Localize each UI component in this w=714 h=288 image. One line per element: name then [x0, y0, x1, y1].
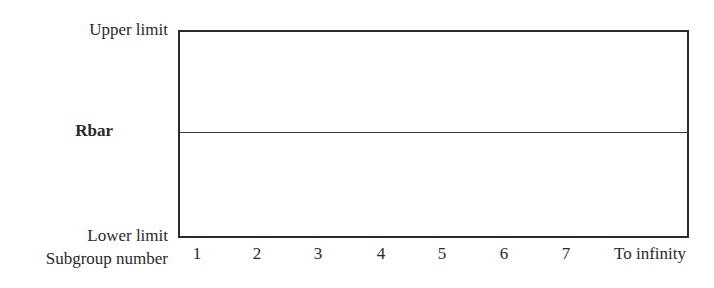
lower-limit-label: Lower limit — [87, 226, 168, 246]
rbar-label: Rbar — [75, 121, 113, 141]
x-tick-label: 2 — [253, 244, 262, 264]
x-tick-label: 7 — [562, 244, 571, 264]
x-axis-title: Subgroup number — [46, 249, 168, 269]
chart-frame — [178, 30, 689, 238]
x-tick-label: 4 — [377, 244, 386, 264]
rbar-center-line — [180, 132, 687, 133]
x-tick-label: 5 — [438, 244, 447, 264]
x-tick-label: To infinity — [614, 244, 686, 264]
x-tick-label: 3 — [314, 244, 323, 264]
upper-limit-label: Upper limit — [89, 20, 168, 40]
x-tick-label: 6 — [500, 244, 509, 264]
x-tick-label: 1 — [193, 244, 202, 264]
